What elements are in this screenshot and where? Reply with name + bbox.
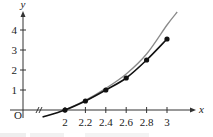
axes <box>10 11 196 118</box>
approximation-curve <box>43 39 167 117</box>
curves <box>43 12 178 117</box>
exact-curve <box>65 12 177 110</box>
data-point-marker <box>124 75 129 80</box>
data-point-marker <box>164 36 169 41</box>
data-point-marker <box>62 107 67 112</box>
clipped-caption <box>0 133 213 137</box>
x-tick-label: 2.4 <box>99 116 113 128</box>
data-point-marker <box>103 87 108 92</box>
y-axis-arrow-icon <box>21 11 26 17</box>
y-tick-label: 3 <box>12 44 18 56</box>
x-tick-label: 2.2 <box>79 116 93 128</box>
y-tick-label: 2 <box>12 64 18 76</box>
y-axis-label: y <box>20 0 26 10</box>
y-tick-label: 1 <box>12 84 18 96</box>
x-tick-label: 3 <box>164 116 170 128</box>
origin-label: O <box>14 109 22 121</box>
chart: 123422.22.42.62.83yxO <box>0 0 213 137</box>
y-tick-label: 4 <box>12 24 18 36</box>
ticks <box>20 30 167 113</box>
x-tick-label: 2.6 <box>119 116 133 128</box>
data-point-marker <box>83 98 88 103</box>
data-point-marker <box>144 57 149 62</box>
labels: 123422.22.42.62.83yxO <box>12 0 205 128</box>
x-tick-label: 2.8 <box>140 116 154 128</box>
x-axis-label: x <box>198 103 204 115</box>
x-tick-label: 2 <box>62 116 68 128</box>
x-axis-arrow-icon <box>190 108 196 113</box>
